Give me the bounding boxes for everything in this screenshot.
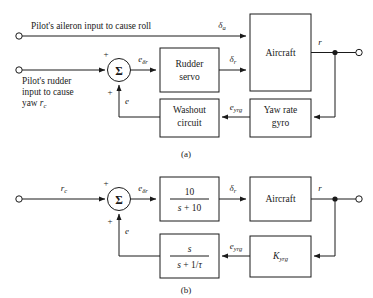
output-terminal-b[interactable] [356, 196, 362, 202]
yaw-rate-gyro-label-line2: gyro [272, 118, 290, 128]
sum-sign-bottom-b: + [107, 216, 112, 226]
delta-a-label: δa [218, 20, 226, 31]
rudder-input-label-line2: input to cause [22, 87, 74, 97]
delta-r-label-b: δr [230, 183, 237, 194]
washout-tf-numerator: s [188, 244, 192, 254]
servo-tf-numerator: 10 [185, 187, 195, 197]
e-yrg-label-b: eyrg [230, 241, 243, 252]
e-delta-r-label-b: eδr [138, 183, 148, 194]
yaw-rate-gyro-label-line1: Yaw rate [264, 105, 298, 115]
block-diagram-svg: Pilot's aileron input to cause roll δa P… [0, 0, 373, 298]
diagram-b: rc Σ + + eδr 10 s + 10 δr Aircraft r [16, 177, 362, 295]
washout-tf-denominator: s + 1/τ [177, 260, 202, 270]
e-feedback-label-b: e [125, 226, 129, 236]
r-output-label-a: r [318, 37, 322, 47]
aircraft-label-b: Aircraft [265, 194, 295, 204]
rc-input-terminal[interactable] [16, 196, 22, 202]
rudder-input-label-line3: yaw rc [22, 98, 46, 109]
e-delta-r-label-a: eδr [138, 54, 148, 65]
aileron-input-terminal[interactable] [16, 33, 22, 39]
washout-circuit-label-line2: circuit [177, 118, 202, 128]
feedback-wire-a [314, 53, 335, 118]
sum-sign-top-a: + [103, 49, 108, 59]
caption-a: (a) [181, 149, 191, 159]
sigma-symbol-a: Σ [115, 65, 123, 77]
feedback-wire-b [314, 199, 335, 256]
washout-circuit-label-line1: Washout [173, 105, 206, 115]
rudder-servo-label-line1: Rudder [176, 59, 205, 69]
sum-sign-bottom-a: + [107, 87, 112, 97]
rudder-input-label-line1: Pilot's rudder [22, 76, 72, 86]
aileron-input-label: Pilot's aileron input to cause roll [31, 21, 152, 31]
delta-r-label-a: δr [230, 54, 237, 65]
diagram-a: Pilot's aileron input to cause roll δa P… [16, 14, 362, 159]
sum-sign-top-b: + [103, 178, 108, 188]
output-terminal-a[interactable] [356, 49, 362, 55]
servo-tf-denominator: s + 10 [178, 203, 202, 213]
aircraft-label-a: Aircraft [265, 48, 295, 58]
rudder-servo-label-line2: servo [179, 72, 200, 82]
e-feedback-label-a: e [125, 96, 129, 106]
rudder-servo-block[interactable] [160, 48, 219, 92]
e-yrg-label-a: eyrg [230, 102, 243, 113]
caption-b: (b) [181, 285, 192, 295]
rc-input-label: rc [61, 183, 68, 194]
r-output-label-b: r [318, 183, 322, 193]
sigma-symbol-b: Σ [115, 194, 123, 206]
figure-container: Pilot's aileron input to cause roll δa P… [0, 0, 373, 298]
rudder-input-terminal[interactable] [16, 67, 22, 73]
